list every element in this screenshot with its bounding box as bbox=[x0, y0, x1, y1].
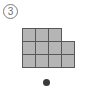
grid-cell bbox=[61, 54, 75, 68]
grid-cell bbox=[22, 54, 36, 68]
item-number-badge: 3 bbox=[3, 4, 18, 19]
dot-marker bbox=[43, 79, 50, 86]
grid-cell bbox=[61, 41, 75, 55]
grid-cell bbox=[22, 28, 36, 42]
diagram-canvas: 3 bbox=[0, 0, 89, 90]
grid-cell bbox=[48, 54, 62, 68]
grid-cell bbox=[48, 41, 62, 55]
grid-cell bbox=[35, 41, 49, 55]
grid-cell bbox=[35, 28, 49, 42]
grid-cell bbox=[22, 41, 36, 55]
polyomino-figure bbox=[22, 28, 76, 69]
grid-cell bbox=[48, 28, 62, 42]
item-number-label: 3 bbox=[8, 7, 14, 17]
grid-cell bbox=[35, 54, 49, 68]
